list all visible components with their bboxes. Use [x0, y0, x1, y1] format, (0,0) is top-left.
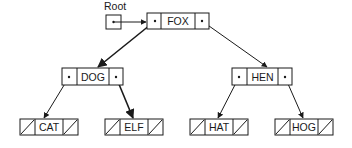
tree-diagram: Root FOX DOG HEN: [0, 0, 352, 148]
right-pointer-dot: [284, 76, 286, 78]
tree-node-hat: HAT: [190, 119, 248, 135]
right-pointer-dot: [115, 76, 117, 78]
tree-node-fox: FOX: [147, 13, 209, 29]
node-value: HEN: [251, 71, 273, 83]
root-label: Root: [104, 0, 126, 12]
left-pointer-dot: [68, 76, 70, 78]
left-pointer-dot: [154, 20, 156, 22]
root-pointer-box: [106, 15, 146, 29]
tree-node-hog: HOG: [275, 119, 333, 135]
left-pointer-dot: [238, 76, 240, 78]
node-value: HOG: [292, 121, 316, 133]
node-value: ELF: [124, 121, 143, 133]
node-value: CAT: [39, 121, 60, 133]
node-value: HAT: [209, 121, 230, 133]
node-value: DOG: [81, 71, 105, 83]
tree-node-cat: CAT: [20, 119, 78, 135]
tree-node-dog: DOG: [62, 68, 123, 85]
tree-node-hen: HEN: [232, 68, 292, 85]
right-pointer-dot: [201, 20, 203, 22]
node-value: FOX: [167, 15, 189, 27]
tree-node-elf: ELF: [105, 119, 163, 135]
